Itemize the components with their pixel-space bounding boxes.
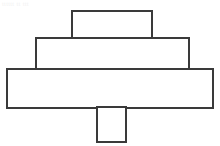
- upper-middle-rectangle: [36, 38, 189, 70]
- wide-base-rectangle: [7, 69, 213, 108]
- stepped-rectangle-figure: [0, 0, 220, 146]
- stem-rectangle: [97, 107, 126, 142]
- diagram-canvas: tttttt tt ttt: [0, 0, 220, 146]
- top-rectangle: [72, 11, 152, 39]
